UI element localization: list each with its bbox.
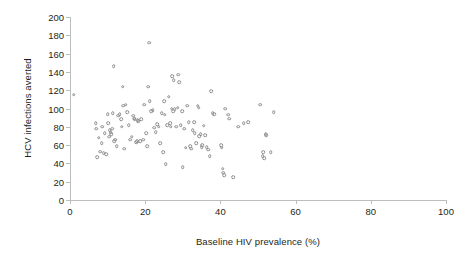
data-point — [192, 120, 196, 124]
y-tick-label: 180 — [38, 30, 64, 41]
data-point — [132, 117, 136, 121]
y-tick-label: 60 — [38, 140, 64, 151]
data-point — [97, 136, 101, 140]
x-tick-mark — [70, 200, 71, 204]
data-point — [170, 75, 174, 79]
y-tick-label: 100 — [38, 103, 64, 114]
data-point — [102, 152, 106, 156]
data-point — [144, 131, 148, 135]
y-tick-label: 140 — [38, 66, 64, 77]
data-point — [189, 147, 193, 151]
y-tick-label: 200 — [38, 12, 64, 23]
x-tick-0: 0 — [50, 206, 90, 220]
data-point — [195, 141, 199, 145]
y-tick-mark — [66, 182, 70, 183]
scatter-chart: 020406080100120140160180200 020406080100… — [0, 0, 472, 271]
data-point — [72, 93, 76, 97]
data-point — [189, 144, 193, 148]
data-point — [169, 125, 173, 129]
x-axis-line — [70, 200, 446, 201]
data-point — [197, 106, 201, 110]
data-point — [231, 175, 235, 179]
data-point — [107, 121, 111, 125]
data-point — [223, 107, 227, 111]
data-point — [237, 125, 241, 129]
data-point — [179, 123, 183, 127]
data-point — [261, 151, 265, 155]
data-point — [116, 114, 120, 118]
data-point — [151, 109, 155, 113]
data-point — [160, 111, 164, 115]
data-point — [165, 123, 169, 127]
data-point — [173, 108, 177, 112]
x-tick-100: 100 — [426, 206, 466, 220]
data-point — [193, 131, 197, 135]
x-tick-label: 20 — [125, 206, 165, 217]
data-point — [162, 99, 166, 103]
y-tick-mark — [66, 90, 70, 91]
y-tick-mark — [66, 145, 70, 146]
data-point — [211, 111, 215, 115]
data-point — [205, 145, 209, 149]
data-point — [181, 165, 185, 169]
data-point — [167, 95, 171, 99]
data-point — [108, 129, 112, 133]
data-point — [109, 130, 113, 134]
data-point — [120, 125, 124, 129]
data-point — [177, 80, 181, 84]
data-point — [196, 104, 200, 108]
data-point — [94, 121, 98, 125]
data-point — [110, 127, 114, 131]
data-point — [264, 133, 268, 137]
data-point — [127, 123, 131, 127]
data-point — [113, 140, 117, 144]
data-point — [122, 147, 126, 151]
data-point — [103, 131, 107, 135]
x-tick-mark — [371, 200, 372, 204]
data-point — [226, 113, 230, 117]
data-point — [155, 122, 159, 126]
x-tick-mark — [145, 200, 146, 204]
data-point — [200, 145, 204, 149]
data-point — [184, 146, 188, 150]
y-tick-mark — [66, 17, 70, 18]
data-point — [106, 112, 110, 116]
data-point — [264, 132, 268, 136]
x-tick-label: 0 — [50, 206, 90, 217]
x-tick-40: 40 — [200, 206, 240, 220]
data-point — [118, 112, 122, 116]
data-point — [158, 141, 162, 145]
data-point — [122, 104, 126, 108]
y-tick-mark — [66, 163, 70, 164]
y-tick-label: 160 — [38, 48, 64, 59]
data-point — [262, 156, 266, 160]
y-tick-label: 80 — [38, 121, 64, 132]
data-point — [246, 120, 250, 124]
data-point — [208, 154, 212, 158]
data-point — [110, 132, 114, 136]
x-tick-label: 80 — [351, 206, 391, 217]
data-point — [128, 138, 132, 142]
data-point — [136, 119, 140, 123]
y-tick-label: 20 — [38, 176, 64, 187]
x-tick-60: 60 — [276, 206, 316, 220]
data-point — [130, 135, 134, 139]
x-tick-80: 80 — [351, 206, 391, 220]
x-tick-mark — [296, 200, 297, 204]
data-point — [152, 126, 156, 130]
data-point — [170, 107, 174, 111]
data-point — [222, 173, 226, 177]
y-tick-mark — [66, 72, 70, 73]
data-point — [143, 103, 147, 107]
y-axis-line — [70, 17, 71, 201]
data-point — [146, 144, 150, 148]
data-point — [164, 163, 168, 167]
data-point — [100, 141, 104, 145]
y-tick-mark — [66, 54, 70, 55]
x-tick-label: 100 — [426, 206, 466, 217]
data-point — [221, 167, 225, 171]
data-point — [141, 138, 145, 142]
data-point — [210, 89, 214, 93]
data-point — [172, 78, 176, 82]
data-point — [222, 171, 226, 175]
